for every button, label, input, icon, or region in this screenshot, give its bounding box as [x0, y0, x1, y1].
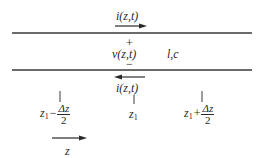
position-label-left: z1−Δz2	[40, 103, 70, 126]
fraction-delta-z-over-2: Δz2	[57, 103, 70, 126]
fraction-delta-z-over-2: Δz2	[201, 103, 214, 126]
current-label-top: i(z,t)	[116, 10, 138, 22]
position-label-right: z1+Δz2	[184, 103, 214, 126]
diagram-graphics	[0, 0, 262, 158]
position-label-center: z1	[129, 108, 138, 124]
minus-sign: −	[126, 58, 133, 70]
current-arrow-left-icon	[114, 75, 145, 80]
current-arrow-right-icon	[115, 24, 147, 29]
z-axis-arrow-icon	[52, 136, 87, 141]
current-label-bottom: i(z,t)	[116, 82, 138, 94]
line-parameters-label: l,c	[167, 48, 179, 60]
z-axis-label: z	[65, 145, 70, 157]
